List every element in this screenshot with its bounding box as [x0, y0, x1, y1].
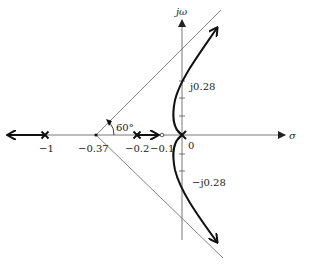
angle-arc — [110, 123, 114, 135]
asymptote-upper — [96, 10, 221, 135]
label-centroid: −0.37 — [78, 143, 109, 154]
label-neg1: −1 — [39, 143, 54, 154]
label-neg02: −0.2 — [125, 143, 149, 154]
label-origin: 0 — [188, 140, 194, 151]
locus-lower-branch — [173, 135, 217, 242]
label-neg-j028: −j0.28 — [192, 177, 226, 188]
label-jw: jω — [174, 6, 187, 17]
centroid-dot — [94, 133, 97, 136]
zero-marker-neg01 — [160, 133, 164, 137]
label-sigma: σ — [289, 130, 297, 141]
angle-label: 60° — [116, 122, 134, 133]
root-locus-diagram: 60° −1 −0.37 −0.2 −0.1 0 σ jω j0.28 −j0.… — [0, 0, 312, 275]
label-neg01: −0.1 — [150, 143, 174, 154]
label-j028: j0.28 — [189, 81, 215, 92]
